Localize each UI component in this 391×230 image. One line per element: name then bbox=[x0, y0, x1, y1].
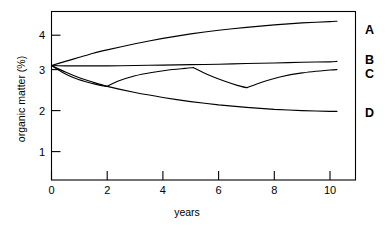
plot-frame bbox=[52, 12, 356, 181]
y-axis-tick-labels: 4 3 2 1 bbox=[39, 29, 45, 157]
x-tick-label-6: 6 bbox=[216, 184, 222, 196]
series-label-D: D bbox=[365, 106, 374, 120]
series-label-C: C bbox=[365, 67, 374, 81]
x-tick-label-2: 2 bbox=[104, 184, 110, 196]
x-tick-label-0: 0 bbox=[48, 184, 54, 196]
series-line-A bbox=[52, 21, 337, 65]
x-tick-label-4: 4 bbox=[160, 184, 166, 196]
x-axis-tick-labels: 0 2 4 6 8 10 bbox=[48, 184, 336, 196]
series-line-C bbox=[52, 66, 337, 88]
organic-matter-line-chart: 4 3 2 1 0 2 4 6 8 10 years organic matte… bbox=[0, 0, 391, 230]
chart-figure: 4 3 2 1 0 2 4 6 8 10 years organic matte… bbox=[0, 0, 391, 230]
x-axis-title: years bbox=[174, 206, 200, 218]
series-label-B: B bbox=[365, 53, 374, 67]
y-tick-label-2: 2 bbox=[39, 105, 45, 117]
x-axis-ticks bbox=[52, 171, 331, 180]
data-series-group bbox=[52, 21, 337, 111]
series-line-D bbox=[52, 66, 337, 112]
series-line-B bbox=[52, 61, 337, 66]
x-tick-label-10: 10 bbox=[324, 184, 336, 196]
y-tick-label-4: 4 bbox=[39, 29, 45, 41]
series-labels-group: A B C D bbox=[365, 23, 374, 120]
y-axis-ticks bbox=[52, 35, 61, 151]
y-tick-label-1: 1 bbox=[39, 146, 45, 158]
y-tick-label-3: 3 bbox=[39, 64, 45, 76]
series-label-A: A bbox=[365, 23, 374, 37]
x-tick-label-8: 8 bbox=[271, 184, 277, 196]
y-axis-title: organic matter (%) bbox=[15, 56, 27, 142]
